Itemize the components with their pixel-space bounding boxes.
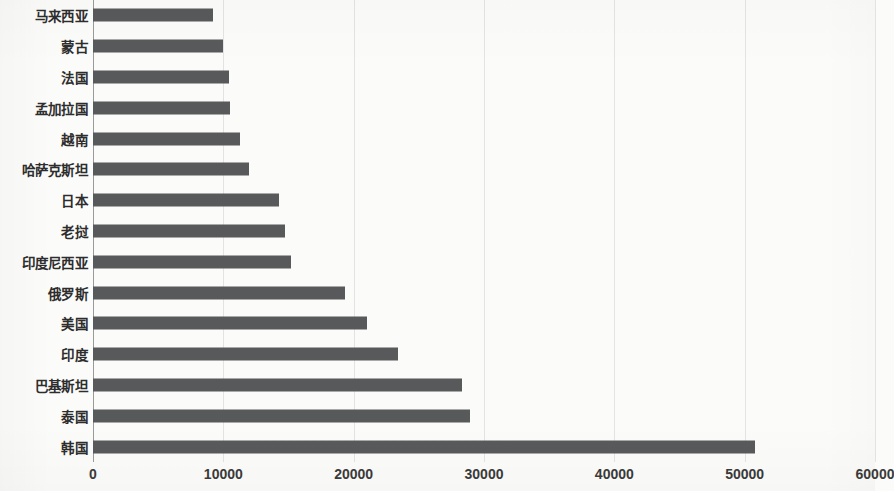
category-label: 马来西亚: [0, 5, 88, 25]
category-label: 印度: [0, 344, 88, 364]
bar[interactable]: [93, 9, 213, 22]
bar[interactable]: [93, 40, 223, 53]
bar[interactable]: [93, 194, 279, 207]
category-label: 法国: [0, 67, 88, 87]
bar[interactable]: [93, 255, 291, 268]
gridline-60000: [875, 0, 876, 462]
x-tick-label: 30000: [465, 466, 504, 482]
bar[interactable]: [93, 101, 230, 114]
bar-row: [93, 277, 875, 308]
bar-row: [93, 185, 875, 216]
bar-row: [93, 246, 875, 277]
category-label: 美国: [0, 313, 88, 333]
plot-area: [93, 0, 875, 462]
bar-row: [93, 31, 875, 62]
bar-row: [93, 0, 875, 31]
bar-row: [93, 62, 875, 93]
bar-row: [93, 123, 875, 154]
category-label: 日本: [0, 190, 88, 210]
bar[interactable]: [93, 348, 398, 361]
bar-row: [93, 431, 875, 462]
category-label: 蒙古: [0, 36, 88, 56]
x-axis-tick-labels: 0100002000030000400005000060000: [93, 464, 875, 491]
bar-row: [93, 308, 875, 339]
bar[interactable]: [93, 440, 755, 453]
category-label: 巴基斯坦: [0, 375, 88, 395]
bar[interactable]: [93, 132, 240, 145]
x-tick-label: 20000: [334, 466, 373, 482]
bar-row: [93, 339, 875, 370]
x-tick-label: 40000: [595, 466, 634, 482]
category-label: 韩国: [0, 437, 88, 457]
category-label: 越南: [0, 129, 88, 149]
category-label: 老挝: [0, 221, 88, 241]
bar-row: [93, 370, 875, 401]
category-label: 孟加拉国: [0, 98, 88, 118]
bars-layer: [93, 0, 875, 462]
category-label: 泰国: [0, 406, 88, 426]
bar-row: [93, 92, 875, 123]
category-label: 印度尼西亚: [0, 252, 88, 272]
bar[interactable]: [93, 409, 470, 422]
x-tick-label: 50000: [725, 466, 764, 482]
x-tick-label: 60000: [856, 466, 894, 482]
x-tick-label: 0: [89, 466, 97, 482]
bar[interactable]: [93, 286, 345, 299]
bar-row: [93, 400, 875, 431]
bar[interactable]: [93, 163, 249, 176]
bar[interactable]: [93, 378, 462, 391]
bar[interactable]: [93, 317, 367, 330]
category-label: 俄罗斯: [0, 283, 88, 303]
bar[interactable]: [93, 224, 285, 237]
category-axis-labels: 马来西亚蒙古法国孟加拉国越南哈萨克斯坦日本老挝印度尼西亚俄罗斯美国印度巴基斯坦泰…: [0, 0, 88, 462]
x-tick-label: 10000: [204, 466, 243, 482]
bar-row: [93, 154, 875, 185]
category-label: 哈萨克斯坦: [0, 159, 88, 179]
bar-row: [93, 216, 875, 247]
bar[interactable]: [93, 70, 229, 83]
